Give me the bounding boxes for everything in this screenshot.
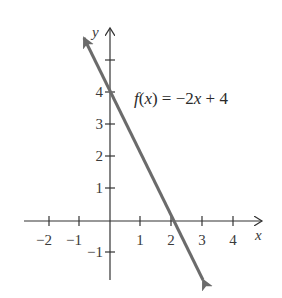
x-tick-labels: −2 −1 1 2 3 4	[36, 232, 237, 248]
y-tick-label: 2	[96, 148, 104, 164]
x-axis-label: x	[254, 227, 262, 243]
x-tick-label: −2	[36, 232, 52, 248]
y-tick-label: 4	[96, 84, 104, 100]
x-tick-label: 2	[167, 232, 175, 248]
x-tick-label: 3	[198, 232, 206, 248]
y-tick-label: −1	[87, 244, 103, 260]
x-tick-label: −1	[66, 232, 82, 248]
y-tick-label: 3	[96, 116, 104, 132]
x-tick-label: 4	[229, 232, 237, 248]
function-graph: −2 −1 1 2 3 4 −1 1 2 3 4 x y f(x) = −2x …	[0, 0, 282, 298]
y-tick-labels: −1 1 2 3 4	[87, 84, 103, 260]
x-tick-label: 1	[136, 232, 144, 248]
equation-label: f(x) = −2x + 4	[134, 89, 228, 108]
y-tick-label: 1	[96, 180, 104, 196]
y-axis-label: y	[90, 24, 99, 40]
